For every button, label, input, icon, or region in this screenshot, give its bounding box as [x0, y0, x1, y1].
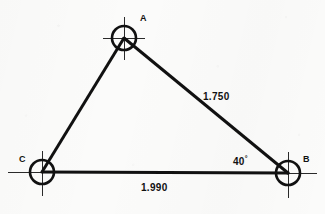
- center-dot-c: [40, 170, 43, 173]
- vertex-circles-group: [30, 26, 300, 185]
- vertex-center-dots-group: [40, 36, 289, 174]
- degree-symbol-icon: °: [245, 155, 248, 162]
- edge-line-cb: [42, 172, 288, 173]
- vertex-label-a: A: [140, 14, 147, 23]
- vertex-label-c: C: [19, 155, 26, 164]
- edge-line-ab: [124, 38, 288, 173]
- angle-value: 40: [233, 156, 245, 167]
- center-dot-a: [122, 36, 125, 39]
- triangle-edges-group: [42, 38, 288, 173]
- dimension-label-cb: 1.990: [141, 183, 168, 193]
- technical-drawing-canvas: A B C 1.750 1.990 40°: [0, 0, 325, 214]
- angle-label-b: 40°: [233, 155, 248, 167]
- center-dot-b: [286, 171, 290, 175]
- dimension-label-ab: 1.750: [203, 92, 230, 102]
- edge-line-ca: [42, 38, 124, 172]
- vertex-label-b: B: [303, 155, 310, 164]
